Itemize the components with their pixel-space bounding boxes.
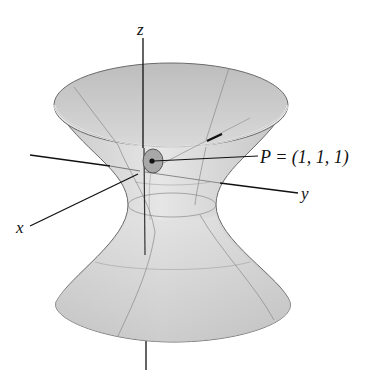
hyperboloid-diagram: z x y P = (1, 1, 1) bbox=[0, 0, 376, 380]
hyperboloid-lower-shading bbox=[56, 215, 291, 342]
z-axis-label: z bbox=[136, 20, 144, 39]
y-axis-positive bbox=[220, 183, 298, 193]
top-rim-opening bbox=[54, 63, 288, 147]
point-p-label: P = (1, 1, 1) bbox=[259, 147, 349, 168]
point-p-marker bbox=[149, 158, 154, 163]
x-axis-label: x bbox=[15, 218, 24, 237]
y-axis-label: y bbox=[299, 184, 309, 203]
x-axis bbox=[30, 174, 138, 226]
hyperboloid-figure: z x y P = (1, 1, 1) bbox=[0, 0, 376, 380]
